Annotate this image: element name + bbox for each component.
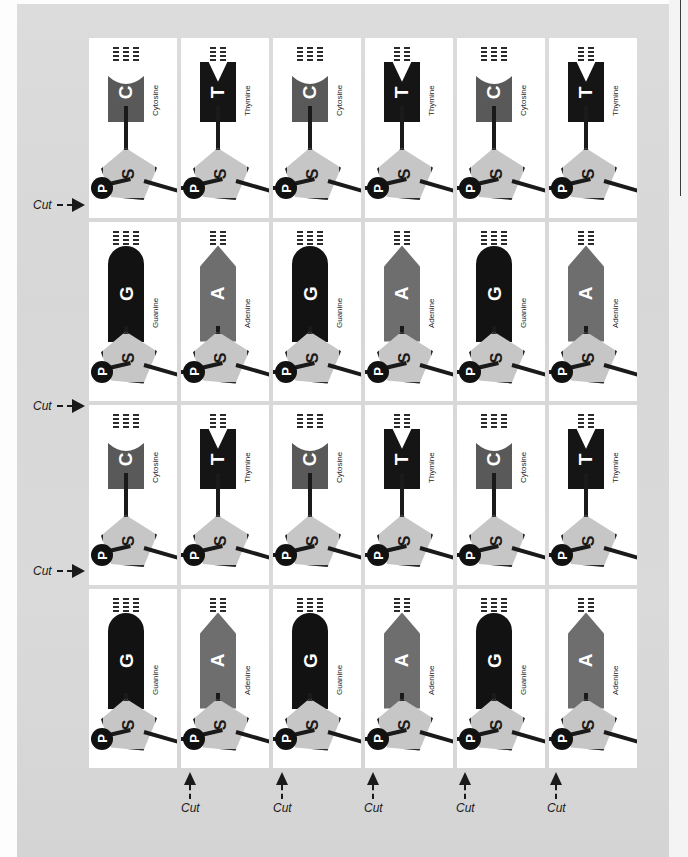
nucleotide-card[interactable]: CCytosineSP: [457, 38, 545, 218]
hydrogen-bond-group: [317, 598, 323, 613]
nucleotide-card[interactable]: CCytosineSP: [457, 405, 545, 585]
hydrogen-bond-group: [588, 47, 594, 62]
nucleotide-card[interactable]: GGuanineSP: [89, 589, 177, 769]
hydrogen-bond-group: [501, 414, 507, 429]
nucleotide-card[interactable]: AAdenineSP: [181, 589, 269, 769]
hydrogen-bond-group: [481, 47, 487, 62]
nucleotide-card[interactable]: GGuanineSP: [457, 222, 545, 402]
base-name-label: Adenine: [243, 665, 252, 694]
base-name-label: Guanine: [335, 297, 344, 327]
base-letter: C: [116, 452, 135, 466]
hydrogen-bond-icon: [292, 230, 328, 246]
base-letter: C: [116, 85, 135, 99]
base-name-label: Adenine: [243, 298, 252, 327]
hydrogen-bond-group: [317, 414, 323, 429]
phosphate-letter: P: [94, 367, 109, 376]
base-name-label: Adenine: [427, 298, 436, 327]
base-letter: T: [576, 86, 595, 98]
phosphate-letter: P: [186, 367, 201, 376]
hydrogen-bond-icon: [568, 46, 604, 62]
base-letter: G: [117, 286, 136, 301]
hydrogen-bond-icon: [108, 46, 144, 62]
phosphate-letter: P: [554, 551, 569, 560]
hydrogen-bond-group: [113, 231, 119, 246]
nucleotide-card[interactable]: TThymineSP: [181, 405, 269, 585]
cut-marker-bottom: Cut: [547, 772, 566, 815]
hydrogen-bond-icon: [384, 230, 420, 246]
phosphate-circle: P: [275, 728, 297, 750]
phosphate-circle: P: [91, 361, 113, 383]
hydrogen-bond-group: [481, 414, 487, 429]
cut-marker-bottom: Cut: [456, 772, 475, 815]
cut-dashed-line: [555, 785, 557, 799]
nucleotide-card[interactable]: AAdenineSP: [365, 589, 453, 769]
nucleotide-card[interactable]: GGuanineSP: [273, 222, 361, 402]
base-sugar-bond: [492, 473, 496, 521]
hydrogen-bond-group: [220, 47, 226, 62]
phosphate-letter: P: [462, 367, 477, 376]
base-letter: T: [392, 453, 411, 465]
base-sugar-bond: [584, 106, 588, 154]
nucleotide-card[interactable]: TThymineSP: [549, 38, 637, 218]
base-letter: A: [576, 654, 595, 668]
hydrogen-bond-icon: [108, 413, 144, 429]
hydrogen-bond-group: [123, 414, 129, 429]
nucleotide-card[interactable]: AAdenineSP: [549, 589, 637, 769]
hydrogen-bond-group: [123, 47, 129, 62]
cut-label: Cut: [456, 801, 475, 815]
base-sugar-bond: [216, 106, 220, 154]
top-page-margin: [0, 0, 688, 4]
base-name-label: Guanine: [151, 664, 160, 694]
phosphate-letter: P: [94, 734, 109, 743]
cut-label: Cut: [33, 399, 52, 413]
cut-arrow-up-icon: [276, 772, 288, 785]
nucleotide-card[interactable]: CCytosineSP: [89, 38, 177, 218]
nucleotide-card[interactable]: TThymineSP: [365, 405, 453, 585]
hydrogen-bond-group: [113, 47, 119, 62]
hydrogen-bond-group: [501, 231, 507, 246]
hydrogen-bond-group: [297, 47, 303, 62]
base-name-label: Adenine: [611, 298, 620, 327]
base-letter: T: [576, 453, 595, 465]
phosphate-letter: P: [186, 551, 201, 560]
nucleotide-card[interactable]: GGuanineSP: [273, 589, 361, 769]
nucleotide-card-grid: CCytosineSPTThymineSPCCytosineSPTThymine…: [89, 38, 637, 768]
hydrogen-bond-group: [133, 47, 139, 62]
hydrogen-bond-group: [491, 598, 497, 613]
nucleotide-card[interactable]: CCytosineSP: [89, 405, 177, 585]
hydrogen-bond-icon: [476, 413, 512, 429]
hydrogen-bond-icon: [292, 413, 328, 429]
phosphate-circle: P: [183, 728, 205, 750]
hydrogen-bond-group: [491, 47, 497, 62]
cut-arrow-up-icon: [550, 772, 562, 785]
nucleotide-card[interactable]: TThymineSP: [549, 405, 637, 585]
hydrogen-bond-group: [394, 598, 400, 613]
hydrogen-bond-group: [297, 598, 303, 613]
base-letter: A: [208, 654, 227, 668]
base-sugar-bond: [124, 106, 128, 154]
nucleotide-card[interactable]: TThymineSP: [181, 38, 269, 218]
hydrogen-bond-group: [578, 414, 584, 429]
hydrogen-bond-group: [588, 231, 594, 246]
hydrogen-bond-group: [297, 231, 303, 246]
nucleotide-card[interactable]: AAdenineSP: [549, 222, 637, 402]
nucleotide-card[interactable]: CCytosineSP: [273, 405, 361, 585]
phosphate-letter: P: [462, 734, 477, 743]
hydrogen-bond-group: [394, 231, 400, 246]
phosphate-circle: P: [551, 361, 573, 383]
nucleotide-card[interactable]: GGuanineSP: [457, 589, 545, 769]
hydrogen-bond-group: [588, 414, 594, 429]
nucleotide-card[interactable]: TThymineSP: [365, 38, 453, 218]
nucleotide-card[interactable]: GGuanineSP: [89, 222, 177, 402]
phosphate-circle: P: [367, 361, 389, 383]
nucleotide-card[interactable]: AAdenineSP: [181, 222, 269, 402]
hydrogen-bond-group: [404, 47, 410, 62]
nucleotide-card[interactable]: AAdenineSP: [365, 222, 453, 402]
base-name-label: Guanine: [519, 297, 528, 327]
nucleotide-card[interactable]: CCytosineSP: [273, 38, 361, 218]
cut-label: Cut: [181, 801, 200, 815]
base-name-label: Thymine: [611, 85, 620, 116]
phosphate-letter: P: [94, 184, 109, 193]
phosphate-letter: P: [278, 734, 293, 743]
hydrogen-bond-group: [220, 231, 226, 246]
